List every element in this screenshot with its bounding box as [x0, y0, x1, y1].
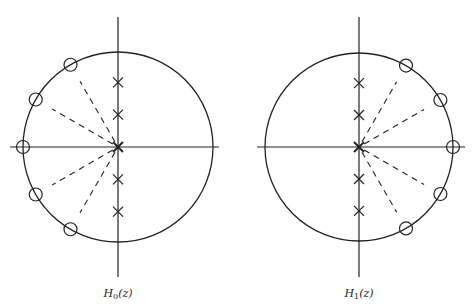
dashed-ray	[364, 109, 424, 144]
dashed-ray	[52, 150, 113, 185]
dashed-ray	[362, 152, 397, 212]
dashed-ray	[80, 152, 115, 213]
plot-h0	[10, 17, 219, 277]
dashed-ray	[364, 150, 424, 185]
dashed-ray	[52, 109, 113, 144]
dashed-ray	[80, 81, 115, 142]
dashed-ray	[362, 82, 397, 142]
pole-zero-figure: H0(z) H1(z)	[0, 0, 474, 308]
plot-h1	[257, 17, 465, 277]
plot-h1-label: H1(z)	[343, 287, 373, 301]
plot-h0-label: H0(z)	[102, 287, 132, 301]
